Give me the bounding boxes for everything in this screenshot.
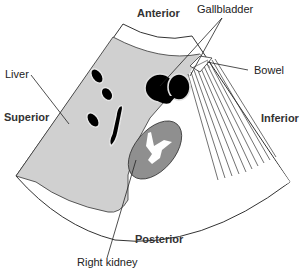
label-superior: Superior bbox=[4, 111, 50, 123]
label-gallbladder: Gallbladder bbox=[197, 3, 254, 15]
ultrasound-diagram: Anterior Posterior Superior Inferior Liv… bbox=[0, 0, 300, 273]
label-bowel: Bowel bbox=[254, 64, 284, 76]
label-inferior: Inferior bbox=[261, 112, 300, 124]
label-anterior: Anterior bbox=[137, 7, 181, 19]
label-right-kidney: Right kidney bbox=[77, 256, 138, 268]
label-liver: Liver bbox=[5, 68, 29, 80]
label-posterior: Posterior bbox=[135, 233, 184, 245]
gallbladder bbox=[145, 74, 190, 104]
